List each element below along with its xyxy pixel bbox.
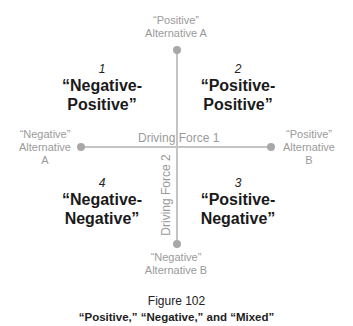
top-endpoint-dot — [173, 46, 181, 54]
left-end-label: “Negative” Alternative A — [10, 128, 80, 167]
left-end-line3: A — [10, 154, 80, 167]
quadrant-4: 4 “Negative- Negative” — [52, 176, 152, 228]
quadrant-2-title-line2: Positive” — [188, 95, 288, 114]
bottom-end-label: “Negative” Alternative B — [126, 251, 226, 277]
figure-number: Figure 102 — [0, 294, 353, 308]
quadrant-1-title-line2: Positive” — [52, 95, 152, 114]
right-end-line3: B — [274, 154, 344, 167]
quadrant-2: 2 “Positive- Positive” — [188, 62, 288, 114]
bottom-endpoint-dot — [173, 240, 181, 248]
quadrant-1-number: 1 — [52, 62, 152, 76]
quadrant-3-title-line2: Negative” — [188, 209, 288, 228]
figure-title: “Positive,” “Negative,” and “Mixed” — [0, 311, 353, 323]
quadrant-1-title-line1: “Negative- — [52, 76, 152, 95]
bottom-end-line1: “Negative” — [126, 251, 226, 264]
top-end-line1: “Positive” — [126, 14, 226, 27]
quadrant-2-title-line1: “Positive- — [188, 76, 288, 95]
quadrant-3-number: 3 — [188, 176, 288, 190]
bottom-end-line2: Alternative B — [126, 264, 226, 277]
quadrant-2-number: 2 — [188, 62, 288, 76]
top-end-line2: Alternative A — [126, 27, 226, 40]
quadrant-3-title-line1: “Positive- — [188, 190, 288, 209]
quadrant-4-number: 4 — [52, 176, 152, 190]
horizontal-axis-label: Driving Force 1 — [138, 131, 219, 145]
quadrant-4-title-line1: “Negative- — [52, 190, 152, 209]
vertical-axis-label: Driving Force 2 — [159, 150, 173, 240]
left-end-line1: “Negative” — [10, 128, 80, 141]
quadrant-1: 1 “Negative- Positive” — [52, 62, 152, 114]
top-end-label: “Positive” Alternative A — [126, 14, 226, 40]
left-end-line2: Alternative — [10, 141, 80, 154]
quadrant-3: 3 “Positive- Negative” — [188, 176, 288, 228]
right-end-line2: Alternative — [274, 141, 344, 154]
horizontal-axis-line — [81, 146, 271, 148]
right-end-label: “Positive” Alternative B — [274, 128, 344, 167]
right-end-line1: “Positive” — [274, 128, 344, 141]
quadrant-4-title-line2: Negative” — [52, 209, 152, 228]
